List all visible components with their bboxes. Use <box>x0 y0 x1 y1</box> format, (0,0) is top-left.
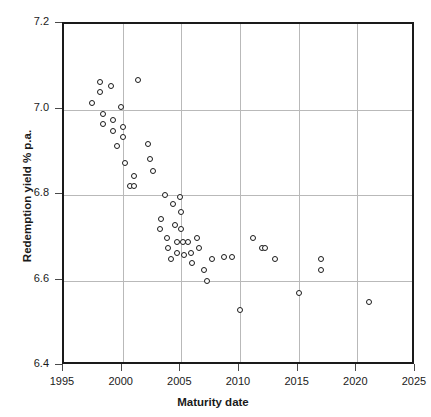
data-point <box>110 128 116 134</box>
data-point <box>188 250 194 256</box>
data-point <box>204 278 210 284</box>
data-point <box>174 239 180 245</box>
data-point <box>168 256 174 262</box>
data-point <box>164 235 170 241</box>
data-point <box>120 124 126 130</box>
x-tick-mark <box>414 364 415 371</box>
data-point <box>100 121 106 127</box>
y-tick-label: 6.6 <box>9 272 49 284</box>
x-tick-label: 2015 <box>275 375 319 387</box>
y-tick-mark <box>55 22 62 23</box>
x-tick-label: 2005 <box>157 375 201 387</box>
data-point <box>174 250 180 256</box>
x-tick-mark <box>179 364 180 371</box>
data-point <box>108 83 114 89</box>
x-tick-label: 2000 <box>99 375 143 387</box>
data-point <box>170 201 176 207</box>
y-tick-mark <box>55 364 62 365</box>
data-point <box>162 192 168 198</box>
y-tick-label: 6.4 <box>9 357 49 369</box>
data-point <box>272 256 278 262</box>
data-point <box>189 260 195 266</box>
data-point <box>178 209 184 215</box>
y-tick-mark <box>55 279 62 280</box>
data-point <box>97 79 103 85</box>
y-gridline <box>64 110 412 111</box>
data-point <box>135 77 141 83</box>
x-tick-label: 2010 <box>216 375 260 387</box>
x-gridline <box>123 24 124 362</box>
data-point <box>209 256 215 262</box>
data-point <box>318 267 324 273</box>
data-point <box>194 235 200 241</box>
data-point <box>97 89 103 95</box>
data-point <box>122 160 128 166</box>
plot-area <box>62 22 414 364</box>
data-point <box>250 235 256 241</box>
data-point <box>110 117 116 123</box>
x-tick-mark <box>62 364 63 371</box>
data-point <box>296 290 302 296</box>
data-point <box>89 100 95 106</box>
data-point <box>366 299 372 305</box>
data-point <box>150 168 156 174</box>
x-tick-label: 1995 <box>40 375 84 387</box>
data-point <box>201 267 207 273</box>
x-tick-mark <box>297 364 298 371</box>
x-tick-mark <box>355 364 356 371</box>
data-point <box>181 252 187 258</box>
y-tick-label: 6.8 <box>9 186 49 198</box>
y-gridline <box>64 195 412 196</box>
x-axis-title: Maturity date <box>0 396 426 408</box>
data-point <box>158 216 164 222</box>
data-point <box>157 226 163 232</box>
data-point <box>114 143 120 149</box>
data-point <box>131 183 137 189</box>
y-gridline <box>64 281 412 282</box>
data-point <box>165 245 171 251</box>
x-tick-label: 2025 <box>392 375 431 387</box>
data-point <box>221 254 227 260</box>
data-point <box>145 141 151 147</box>
y-tick-mark <box>55 108 62 109</box>
data-point <box>178 226 184 232</box>
data-point <box>318 256 324 262</box>
y-tick-mark <box>55 193 62 194</box>
x-tick-mark <box>121 364 122 371</box>
data-point <box>100 111 106 117</box>
data-point <box>185 239 191 245</box>
y-tick-label: 7.0 <box>9 101 49 113</box>
data-point <box>147 156 153 162</box>
x-tick-mark <box>238 364 239 371</box>
x-tick-label: 2020 <box>333 375 377 387</box>
data-point <box>120 134 126 140</box>
x-gridline <box>357 24 358 362</box>
x-gridline <box>181 24 182 362</box>
data-point <box>237 307 243 313</box>
data-point <box>262 245 268 251</box>
x-gridline <box>299 24 300 362</box>
data-point <box>131 173 137 179</box>
data-point <box>229 254 235 260</box>
y-tick-label: 7.2 <box>9 15 49 27</box>
data-point <box>196 245 202 251</box>
